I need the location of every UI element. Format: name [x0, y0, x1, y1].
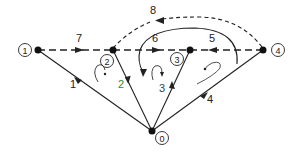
graph-diagram: 7 6 5 8 1 2 3 4 [0, 0, 301, 154]
edge-label-1: 1 [70, 78, 76, 90]
arrow-icon [140, 69, 147, 77]
arrow-icon [152, 47, 161, 53]
edge-label-8: 8 [150, 4, 156, 16]
curl-loop-icon [95, 65, 105, 82]
node-1: 1 [19, 44, 42, 57]
node-0: 0 [149, 128, 169, 145]
node-label-0: 0 [159, 134, 164, 144]
arrow-icon [208, 47, 217, 53]
edge-label-3: 3 [159, 82, 165, 94]
edge-label-5: 5 [209, 32, 215, 44]
node-label-1: 1 [22, 46, 27, 56]
edge-1: 1 [38, 50, 152, 131]
node-4: 4 [260, 44, 285, 57]
edge-8: 8 [113, 4, 262, 48]
arrow-icon [155, 17, 164, 24]
edge-label-2: 2 [118, 78, 124, 90]
node-label-2: 2 [104, 57, 109, 67]
edge-4: 4 [152, 50, 263, 131]
edge-7: 7 [38, 32, 113, 53]
arrow-icon [75, 47, 84, 53]
edge-2: 2 [113, 50, 152, 131]
node-label-3: 3 [174, 55, 179, 65]
node-label-4: 4 [275, 46, 280, 56]
edge-label-4: 4 [207, 93, 213, 105]
edge-label-7: 7 [76, 32, 82, 44]
curl-loop-icon [197, 62, 220, 84]
edge-6: 6 [113, 32, 190, 53]
edge-5: 5 [190, 32, 263, 53]
